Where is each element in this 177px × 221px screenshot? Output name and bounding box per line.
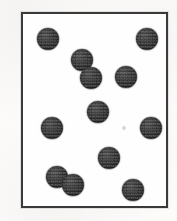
data-point-circle [80, 67, 102, 89]
data-point-circle [37, 28, 59, 50]
plot-surface [23, 14, 166, 206]
data-point-circle [87, 101, 109, 123]
data-point-circle [41, 117, 63, 139]
data-point-circle [115, 66, 137, 88]
data-point-circle [122, 179, 144, 201]
data-point-circle [140, 117, 162, 139]
figure-root: Scatter of dark circular particles insid… [0, 0, 177, 221]
data-point-circle [98, 147, 120, 169]
data-point-circle [136, 28, 158, 50]
scan-speck [122, 125, 126, 131]
data-point-circle [62, 174, 84, 196]
plot-border [21, 12, 168, 208]
